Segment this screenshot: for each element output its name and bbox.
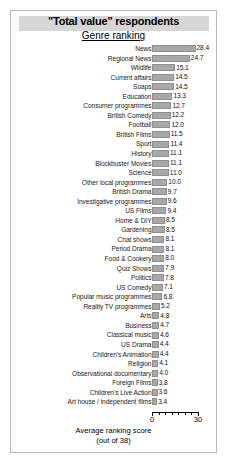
category-label: News [135, 44, 151, 53]
bar-row: British Drama9.7 [11, 187, 216, 197]
bar-row: Quiz Shows7.9 [11, 264, 216, 274]
category-label: Consumer programmes [83, 101, 151, 110]
x-axis-minor-tick [178, 412, 179, 415]
category-label: British Films [116, 130, 151, 139]
bar-value-label: 12.2 [172, 110, 184, 119]
x-axis-minor-tick [159, 412, 160, 415]
bar [152, 293, 162, 300]
bar-value-label: 13.3 [173, 91, 185, 100]
bar-container [152, 150, 169, 157]
bar-container [152, 93, 172, 100]
bar [152, 322, 159, 329]
bar-row: Education13.3 [11, 92, 216, 102]
bar [152, 160, 169, 167]
bar [152, 179, 167, 186]
bar-value-label: 11.5 [171, 129, 183, 138]
bar [152, 255, 164, 262]
category-label: US Films [125, 206, 151, 215]
bar [152, 55, 190, 62]
category-label: Politics [131, 273, 152, 282]
category-label: Science [128, 168, 151, 177]
bar-container [152, 236, 164, 243]
bar-container [152, 246, 164, 253]
bar [152, 341, 159, 348]
bar-container [152, 121, 170, 128]
category-label: Chat shows [118, 235, 152, 244]
category-label: Blockbuster Movies [95, 159, 151, 168]
category-label: Gardening [121, 225, 151, 234]
bar-value-label: 4.7 [160, 320, 169, 329]
category-label: Popular music programmes [72, 292, 151, 301]
bar-row: Football12.0 [11, 120, 216, 130]
category-label: Children's Animation [93, 350, 152, 359]
chart-frame: "Total value" respondents Genre ranking … [10, 10, 217, 453]
bar-value-label: 7.9 [165, 263, 174, 272]
category-label: Sport [136, 139, 152, 148]
bar-row: US Films9.4 [11, 206, 216, 216]
bar-row: News28.4 [11, 44, 216, 54]
bar-row: Children's Live Action3.6 [11, 388, 216, 398]
bar-row: Children's Animation4.4 [11, 350, 216, 360]
x-axis-minor-tick [165, 412, 166, 415]
bar-container [152, 255, 164, 262]
bar-row: Observational documentary4.0 [11, 369, 216, 379]
bar [152, 265, 164, 272]
x-axis-minor-tick [172, 412, 173, 415]
bar-container [152, 74, 174, 81]
category-label: Classical music [107, 330, 152, 339]
bar-row: Period Drama8.1 [11, 244, 216, 254]
category-label: Children's Live Action [90, 388, 152, 397]
bar-value-label: 7.8 [165, 273, 174, 282]
bar-container [152, 55, 190, 62]
bar-container [152, 102, 171, 109]
bar [152, 303, 160, 310]
bar-value-label: 9.6 [168, 196, 177, 205]
bar-container [152, 207, 166, 214]
bar-value-label: 15.1 [176, 63, 188, 72]
bar-value-label: 11.0 [170, 168, 182, 177]
bar-value-label: 3.4 [158, 397, 167, 406]
bar-row: US Drama4.4 [11, 340, 216, 350]
bar-container [152, 312, 159, 319]
bar [152, 246, 164, 253]
bar-container [152, 188, 167, 195]
bar [152, 332, 159, 339]
bar-value-label: 3.6 [159, 387, 168, 396]
bar-row: Home & DIY8.5 [11, 216, 216, 226]
bar-container [152, 217, 165, 224]
bar-value-label: 8.5 [166, 225, 175, 234]
bar-row: British Films11.5 [11, 130, 216, 140]
bar-container [152, 293, 162, 300]
bar-value-label: 28.4 [197, 43, 209, 52]
category-label: Education [123, 92, 152, 101]
bar [152, 312, 159, 319]
x-axis-tick-label: 30 [194, 415, 202, 424]
bar-container [152, 303, 160, 310]
bar-value-label: 11.4 [170, 139, 182, 148]
bar-value-label: 8.1 [165, 234, 174, 243]
bar-container [152, 83, 174, 90]
bar-container [152, 370, 158, 377]
bar [152, 236, 164, 243]
bar [152, 83, 174, 90]
x-axis-minor-tick [191, 412, 192, 415]
bar-container [152, 112, 171, 119]
category-label: Business [125, 321, 151, 330]
bar [152, 351, 159, 358]
category-label: Wildlife [131, 63, 152, 72]
bar-value-label: 11.1 [170, 148, 182, 157]
bar-value-label: 6.8 [163, 292, 172, 301]
bar-value-label: 4.4 [160, 339, 169, 348]
bar [152, 284, 163, 291]
bar-value-label: 14.5 [175, 72, 187, 81]
bar-row: British Comedy12.2 [11, 111, 216, 121]
category-label: Home & DIY [115, 216, 151, 225]
bar [152, 389, 158, 396]
bar [152, 207, 166, 214]
bar-value-label: 4.4 [160, 349, 169, 358]
category-label: Observational documentary [72, 369, 151, 378]
bar [152, 198, 167, 205]
bar [152, 360, 158, 367]
bar-container [152, 332, 159, 339]
bar-row: Investigative programmes9.6 [11, 197, 216, 207]
